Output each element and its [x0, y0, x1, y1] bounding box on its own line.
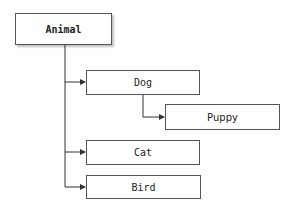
node-animal: Animal — [15, 13, 112, 45]
node-animal-label: Animal — [45, 24, 81, 35]
node-bird-label: Bird — [131, 182, 155, 193]
node-bird: Bird — [86, 175, 201, 199]
node-puppy-label: Puppy — [207, 112, 238, 123]
node-cat: Cat — [86, 140, 200, 165]
node-cat-label: Cat — [134, 147, 152, 158]
node-dog: Dog — [86, 70, 200, 95]
node-puppy: Puppy — [165, 104, 280, 130]
node-dog-label: Dog — [134, 77, 152, 88]
